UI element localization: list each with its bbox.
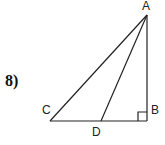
vertex-label-c: C: [42, 103, 51, 117]
segment-ac: [50, 15, 147, 121]
vertex-label-d: D: [92, 125, 101, 139]
segment-ad: [101, 15, 147, 121]
vertex-label-a: A: [142, 0, 150, 13]
vertex-label-b: B: [151, 103, 159, 117]
right-angle-marker: [138, 112, 147, 121]
triangle-diagram: [0, 0, 165, 145]
